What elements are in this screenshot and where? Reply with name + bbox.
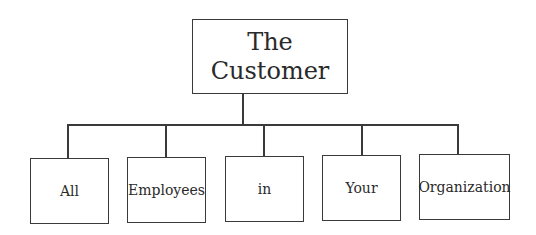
drop-line-all	[67, 124, 69, 158]
child-node-organization: Organization	[419, 154, 510, 220]
child-node-label: All	[60, 183, 79, 199]
child-node-all: All	[30, 158, 109, 224]
root-connector	[242, 93, 244, 126]
root-node-label-line2: Customer	[211, 57, 330, 86]
child-node-label: Your	[345, 180, 377, 196]
root-node-label-line1: The	[247, 28, 293, 57]
child-node-in: in	[225, 156, 304, 222]
drop-line-employees	[165, 124, 167, 158]
drop-line-organization	[457, 124, 459, 155]
drop-line-your	[361, 124, 363, 156]
root-node-the-customer: The Customer	[192, 19, 348, 94]
child-node-label: Employees	[128, 182, 205, 198]
child-node-your: Your	[322, 155, 401, 221]
child-node-employees: Employees	[127, 157, 206, 223]
drop-line-in	[263, 124, 265, 157]
child-node-label: in	[258, 181, 272, 197]
child-node-label: Organization	[418, 179, 510, 195]
